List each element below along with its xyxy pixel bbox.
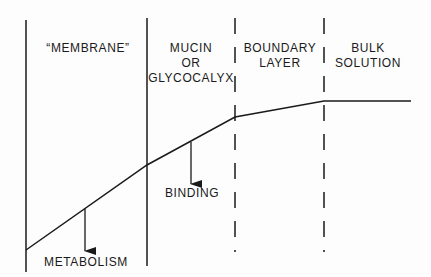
region-label-mucin: MUCIN OR GLYCOCALYX [143, 41, 239, 86]
region-label-boundary-layer: BOUNDARY LAYER [238, 41, 322, 71]
bulk-label-line1: BULK [326, 41, 410, 56]
diagram-canvas: “MEMBRANE” MUCIN OR GLYCOCALYX BOUNDARY … [0, 0, 431, 277]
mucin-label-line2: OR [143, 56, 239, 71]
concentration-profile-line [26, 101, 411, 250]
metabolism-label: METABOLISM [38, 255, 134, 270]
mucin-label-line3: GLYCOCALYX [143, 71, 239, 86]
boundary-label-line2: LAYER [238, 56, 322, 71]
boundary-label-line1: BOUNDARY [238, 41, 322, 56]
region-label-membrane: “MEMBRANE” [36, 41, 140, 56]
bulk-label-line2: SOLUTION [326, 56, 410, 71]
mucin-label-line1: MUCIN [143, 41, 239, 56]
region-label-bulk-solution: BULK SOLUTION [326, 41, 410, 71]
binding-label: BINDING [160, 186, 224, 201]
membrane-label: “MEMBRANE” [36, 41, 140, 56]
